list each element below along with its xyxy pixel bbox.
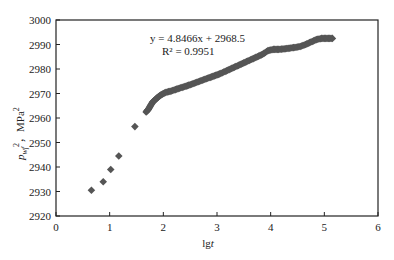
y-tick-label: 3000 xyxy=(29,14,52,26)
y-axis-title: pwf2，MPa2 xyxy=(12,107,29,161)
x-axis: 0123456 xyxy=(53,212,381,233)
x-tick-label: 1 xyxy=(107,221,113,233)
scatter-chart: 292029302940295029602970298029903000 012… xyxy=(0,0,394,260)
regression-equation: y = 4.8466x + 2968.5 xyxy=(150,32,245,44)
data-point xyxy=(107,166,115,174)
x-tick-label: 3 xyxy=(214,221,220,233)
plot-frame xyxy=(56,20,378,216)
data-point xyxy=(99,178,107,186)
svg-text:pwf2，MPa2: pwf2，MPa2 xyxy=(12,107,29,161)
x-tick-label: 6 xyxy=(375,221,381,233)
r-squared-label: R² = 0.9951 xyxy=(162,45,215,57)
y-tick-label: 2950 xyxy=(29,137,52,149)
data-point xyxy=(88,186,96,194)
x-axis-title: lgt xyxy=(202,237,215,249)
x-tick-label: 0 xyxy=(53,221,59,233)
y-tick-label: 2920 xyxy=(29,210,52,222)
x-tick-label: 2 xyxy=(161,221,167,233)
y-tick-label: 2970 xyxy=(29,88,52,100)
y-tick-label: 2940 xyxy=(29,161,52,173)
data-series xyxy=(88,35,337,195)
x-tick-label: 5 xyxy=(322,221,328,233)
data-point xyxy=(131,123,139,131)
y-tick-label: 2990 xyxy=(29,39,52,51)
y-axis: 292029302940295029602970298029903000 xyxy=(29,14,60,222)
x-tick-label: 4 xyxy=(268,221,274,233)
y-tick-label: 2980 xyxy=(29,63,52,75)
y-tick-label: 2930 xyxy=(29,186,52,198)
y-tick-label: 2960 xyxy=(29,112,52,124)
data-point xyxy=(115,152,123,160)
